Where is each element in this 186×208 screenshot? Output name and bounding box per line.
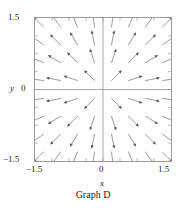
x-tick-label-left: −1.5 [26,165,42,174]
graph-figure: 1.5 0 −1.5 −1.5 0 1.5 y x Graph D [0,0,186,208]
x-axis-label: x [100,179,104,188]
y-tick-label-top: 1.5 [8,13,19,22]
plot-area [34,17,172,162]
vector-field-plot [35,18,171,161]
figure-caption: Graph D [0,190,186,200]
y-axis-label: y [10,84,14,93]
x-tick-label-right: 1.5 [158,165,169,174]
x-tick-label-zero: 0 [99,165,104,174]
y-tick-label-bottom: −1.5 [3,155,19,164]
y-tick-label-zero: 0 [21,84,26,93]
